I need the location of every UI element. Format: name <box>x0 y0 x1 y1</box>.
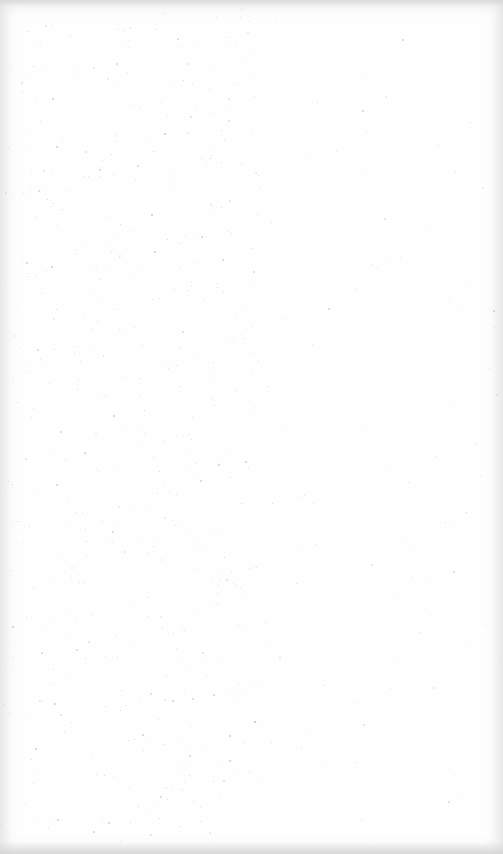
speck <box>313 503 314 504</box>
speck <box>184 630 185 631</box>
speck <box>28 276 29 277</box>
speck <box>92 755 93 756</box>
speck <box>45 25 47 27</box>
speck <box>39 700 41 702</box>
speck <box>12 626 14 628</box>
speck <box>182 658 183 659</box>
speck <box>139 396 140 397</box>
speck <box>0 625 1 626</box>
speck <box>219 763 220 764</box>
speck <box>221 162 222 163</box>
speck <box>144 737 145 738</box>
speck <box>355 762 356 763</box>
speck <box>245 311 246 312</box>
speck <box>363 724 365 726</box>
speck <box>259 187 260 188</box>
speck <box>420 632 421 633</box>
speck <box>161 102 162 103</box>
speck <box>116 235 117 236</box>
speck <box>226 579 228 581</box>
speck <box>167 799 168 800</box>
speck <box>223 780 225 782</box>
speck <box>119 329 120 330</box>
speck <box>211 204 212 205</box>
speck <box>40 45 41 46</box>
speck <box>240 17 241 18</box>
speck <box>210 373 211 374</box>
speck <box>224 139 225 140</box>
speck <box>53 669 54 670</box>
speck <box>484 801 485 802</box>
speck <box>21 85 22 86</box>
speck <box>217 283 218 284</box>
speck <box>42 701 43 702</box>
speck <box>2 184 3 185</box>
speck <box>257 724 258 725</box>
speck <box>213 112 214 113</box>
speck <box>328 308 330 310</box>
speck <box>51 206 52 207</box>
speck <box>137 165 139 167</box>
speck <box>57 13 58 14</box>
speck <box>191 726 192 727</box>
speck <box>69 672 70 673</box>
speck <box>244 338 245 339</box>
speck <box>391 688 392 689</box>
speck <box>323 685 324 686</box>
speck <box>124 30 125 31</box>
speck <box>235 319 236 320</box>
speck <box>21 719 22 720</box>
speck <box>97 321 98 322</box>
speck <box>436 456 437 457</box>
speck <box>150 693 152 695</box>
speck <box>221 130 222 131</box>
speck <box>217 593 218 594</box>
speck <box>36 217 37 218</box>
speck <box>125 705 126 706</box>
speck <box>86 541 87 542</box>
speck <box>208 146 209 147</box>
speck <box>301 748 302 749</box>
speck <box>180 268 181 269</box>
speck <box>187 531 188 532</box>
speck <box>65 459 66 460</box>
speck <box>52 27 53 28</box>
speck <box>85 529 86 530</box>
speck <box>157 807 158 808</box>
speck <box>148 137 149 138</box>
speck <box>37 349 39 351</box>
speck <box>192 84 193 85</box>
speck <box>494 327 495 328</box>
speck <box>177 38 179 40</box>
speck <box>174 289 175 290</box>
speck <box>212 580 213 581</box>
speck <box>210 158 211 159</box>
speck <box>385 96 387 98</box>
bottom-edge-shadow <box>0 842 503 854</box>
speck <box>455 172 456 173</box>
speck <box>43 170 45 172</box>
speck <box>175 525 176 526</box>
speck <box>222 259 224 261</box>
speck <box>411 576 412 577</box>
speck <box>21 82 23 84</box>
speck <box>247 32 249 34</box>
speck <box>212 206 213 207</box>
speck <box>22 261 23 262</box>
speck <box>200 480 202 482</box>
speck <box>99 471 100 472</box>
speck <box>64 732 65 733</box>
speck <box>56 146 58 148</box>
speck <box>77 389 78 390</box>
speck <box>154 538 155 539</box>
speck <box>115 134 116 135</box>
speck <box>430 579 431 580</box>
speck <box>103 818 104 819</box>
speck <box>92 329 93 330</box>
speck <box>130 822 131 823</box>
speck <box>29 146 30 147</box>
speck <box>74 346 75 347</box>
speck <box>400 257 401 258</box>
speck <box>105 536 106 537</box>
speck <box>455 775 456 776</box>
